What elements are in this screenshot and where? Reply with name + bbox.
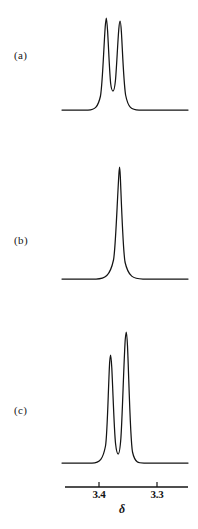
spectra-canvas (0, 0, 198, 529)
spectrum-trace-a (62, 18, 188, 110)
spectrum-trace-b (62, 167, 188, 279)
panel-label-c: (c) (14, 405, 27, 416)
nmr-spectra-figure: (a) (b) (c) 3.4 3.3 δ (0, 0, 198, 529)
axis-tick-label-3-3: 3.3 (150, 489, 163, 500)
axis-tick-label-3-4: 3.4 (92, 489, 105, 500)
spectrum-trace-c (62, 332, 188, 463)
panel-label-a: (a) (14, 50, 27, 61)
panel-label-b: (b) (14, 235, 28, 246)
axis-label-delta: δ (119, 503, 125, 515)
